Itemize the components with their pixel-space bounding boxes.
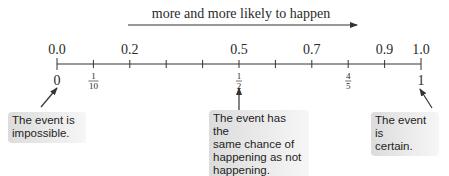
fraction-denominator: 10 xyxy=(89,81,99,91)
fraction-denominator: 5 xyxy=(346,81,351,91)
fraction-whole: 0 xyxy=(54,73,61,88)
pointer-arrow-certain xyxy=(420,89,432,108)
decimal-tick-label: 0.0 xyxy=(48,42,66,57)
fraction-numerator: 1 xyxy=(91,71,96,81)
decimal-tick-label: 1.0 xyxy=(412,42,430,57)
decimal-tick-label: 0.9 xyxy=(376,42,394,57)
decimal-labels: 0.00.20.50.70.91.0 xyxy=(48,42,430,57)
fraction-tick-label: 1 xyxy=(418,73,425,88)
callout-certain: The event is certain. xyxy=(371,112,439,156)
fraction-tick-label: 110 xyxy=(88,71,98,91)
fraction-numerator: 4 xyxy=(346,71,351,81)
callout-even-chance: The event has the same chance of happeni… xyxy=(209,110,309,176)
decimal-tick-label: 0.2 xyxy=(121,42,139,57)
decimal-tick-label: 0.5 xyxy=(230,42,248,57)
fraction-numerator: 1 xyxy=(237,71,242,81)
callout-impossible: The event is impossible. xyxy=(8,112,86,143)
likelihood-label: more and more likely to happen xyxy=(152,6,330,21)
fraction-whole: 1 xyxy=(418,73,425,88)
decimal-tick-label: 0.7 xyxy=(303,42,321,57)
fraction-tick-label: 0 xyxy=(54,73,61,88)
fraction-tick-label: 45 xyxy=(345,71,351,91)
pointer-arrow-impossible xyxy=(41,88,57,107)
